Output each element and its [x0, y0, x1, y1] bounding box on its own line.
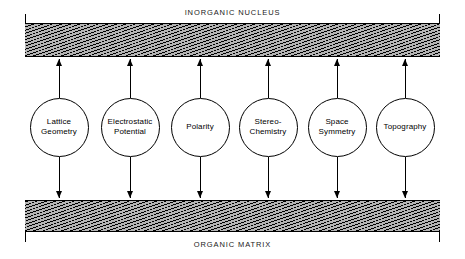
factor-circle-label: Electrostatic Potential	[108, 117, 153, 138]
arrowhead-up-icon	[334, 59, 340, 66]
factor-circle-label: Stereo- Chemistry	[250, 117, 287, 138]
arrowhead-down-icon	[127, 191, 133, 198]
bar-top-right-tick	[439, 14, 440, 24]
factor-circle-label: Topography	[384, 122, 427, 133]
factor-circle: Stereo- Chemistry	[239, 98, 298, 157]
factor-circle: Space Symmetry	[308, 98, 367, 157]
interface-diagram: INORGANIC NUCLEUS ORGANIC MATRIX Lattice…	[0, 0, 465, 259]
arrowhead-down-icon	[197, 191, 203, 198]
arrowhead-up-icon	[402, 59, 408, 66]
organic-matrix-label: ORGANIC MATRIX	[0, 240, 465, 249]
factor-circle: Electrostatic Potential	[101, 98, 160, 157]
organic-matrix-bar	[25, 200, 440, 232]
factor-circle: Polarity	[171, 98, 230, 157]
factor-circle-label: Space Symmetry	[319, 117, 356, 138]
arrowhead-down-icon	[265, 191, 271, 198]
arrowhead-up-icon	[127, 59, 133, 66]
arrowhead-down-icon	[402, 191, 408, 198]
factor-circle: Topography	[376, 98, 435, 157]
arrowhead-down-icon	[56, 191, 62, 198]
factor-circle-label: Polarity	[186, 122, 213, 133]
bar-top-left-tick	[25, 14, 26, 24]
arrowhead-up-icon	[265, 59, 271, 66]
arrowhead-up-icon	[56, 59, 62, 66]
arrowhead-up-icon	[197, 59, 203, 66]
arrowhead-down-icon	[334, 191, 340, 198]
factor-circle: Lattice Geometry	[30, 98, 89, 157]
factor-circle-label: Lattice Geometry	[41, 117, 77, 138]
inorganic-nucleus-bar	[25, 23, 440, 57]
inorganic-nucleus-label: INORGANIC NUCLEUS	[0, 8, 465, 17]
